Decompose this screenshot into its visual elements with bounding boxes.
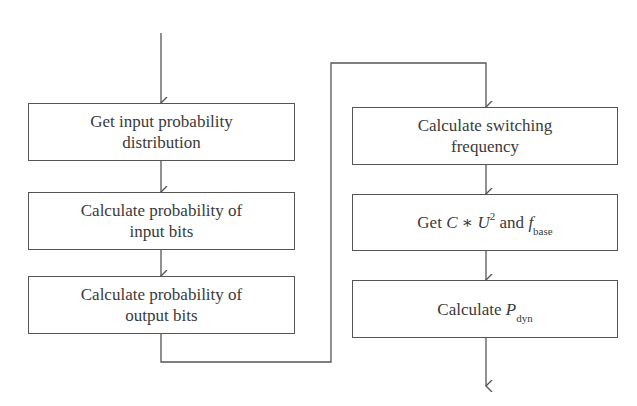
step-text-line: input bits <box>81 221 242 242</box>
step-calc-switching-frequency: Calculate switching frequency <box>352 107 618 165</box>
exponent: 2 <box>490 210 496 222</box>
step-text-line: Calculate switching <box>418 115 553 136</box>
step-text-line: Get input probability <box>90 111 233 132</box>
step-text-line: distribution <box>90 132 233 153</box>
text-and: and <box>495 213 528 232</box>
symbol-p: P <box>506 300 516 319</box>
symbol-c: C <box>446 213 457 232</box>
symbol-u: U <box>478 213 490 232</box>
step-calc-pdyn: Calculate Pdyn <box>352 280 618 338</box>
step-calc-prob-input-bits: Calculate probability of input bits <box>28 192 295 250</box>
step-text-line: frequency <box>418 136 553 157</box>
operator-star: ∗ <box>457 213 477 232</box>
step-text-line: Calculate probability of <box>81 200 242 221</box>
step-calc-prob-output-bits: Calculate probability of output bits <box>28 276 295 334</box>
subscript-base: base <box>533 225 553 237</box>
text-prefix: Calculate <box>437 300 505 319</box>
step-text-formula: Get C ∗ U2 and fbase <box>417 212 552 233</box>
step-get-input-probability: Get input probability distribution <box>28 103 295 161</box>
step-get-cu2-fbase: Get C ∗ U2 and fbase <box>352 194 618 251</box>
step-text-line: Calculate probability of <box>81 284 242 305</box>
text-prefix: Get <box>417 213 446 232</box>
step-text-formula: Calculate Pdyn <box>437 299 532 320</box>
subscript-dyn: dyn <box>516 312 533 324</box>
flowchart-canvas: Get input probability distribution Calcu… <box>0 0 637 406</box>
step-text-line: output bits <box>81 305 242 326</box>
